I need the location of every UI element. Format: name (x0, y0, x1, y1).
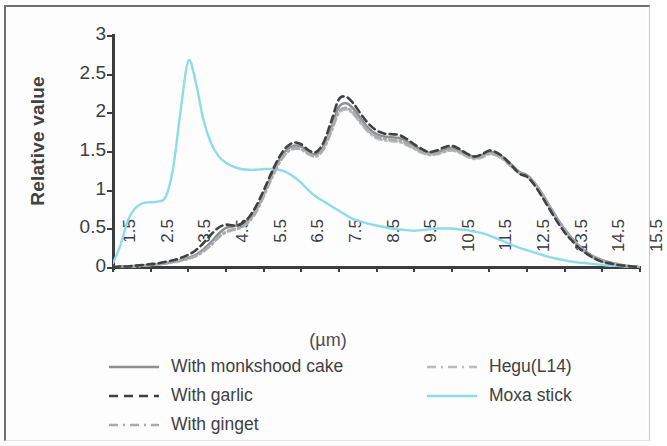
y-tick-label: 1 (60, 178, 106, 200)
y-tick-label: 3 (60, 23, 106, 45)
legend-line-swatch (426, 390, 478, 402)
series-line (113, 108, 640, 267)
legend-label: Moxa stick (489, 385, 572, 406)
y-tick-label: 0.5 (60, 216, 106, 238)
legend-item: With garlic (108, 381, 398, 410)
x-axis-title: (µm) (0, 330, 656, 351)
legend-line-swatch (426, 361, 478, 373)
legend-item: Moxa stick (426, 381, 646, 410)
legend-label: With monkshood cake (171, 356, 343, 377)
legend-column-right: Hegu(L14)Moxa stick (426, 352, 646, 410)
y-tick-label: 2 (60, 100, 106, 122)
legend-item: Hegu(L14) (426, 352, 646, 381)
legend-label: With garlic (171, 385, 253, 406)
plot-area (113, 36, 640, 268)
y-axis-title: Relative value (27, 41, 49, 241)
y-tick-label: 1.5 (60, 139, 106, 161)
legend-item: With ginget (108, 410, 398, 439)
series-line (113, 103, 640, 267)
y-tick-label: 0 (60, 255, 106, 277)
legend-label: With ginget (171, 414, 259, 435)
x-tick-label: 15.5 (647, 219, 667, 279)
series-line (113, 96, 640, 267)
legend-line-swatch (108, 419, 160, 431)
series-lines (113, 36, 640, 268)
series-line (113, 60, 640, 267)
legend-item: With monkshood cake (108, 352, 398, 381)
legend-line-swatch (108, 361, 160, 373)
legend-label: Hegu(L14) (489, 356, 572, 377)
legend-column-left: With monkshood cakeWith garlicWith ginge… (108, 352, 398, 439)
y-tick-label: 2.5 (60, 62, 106, 84)
legend-line-swatch (108, 390, 160, 402)
